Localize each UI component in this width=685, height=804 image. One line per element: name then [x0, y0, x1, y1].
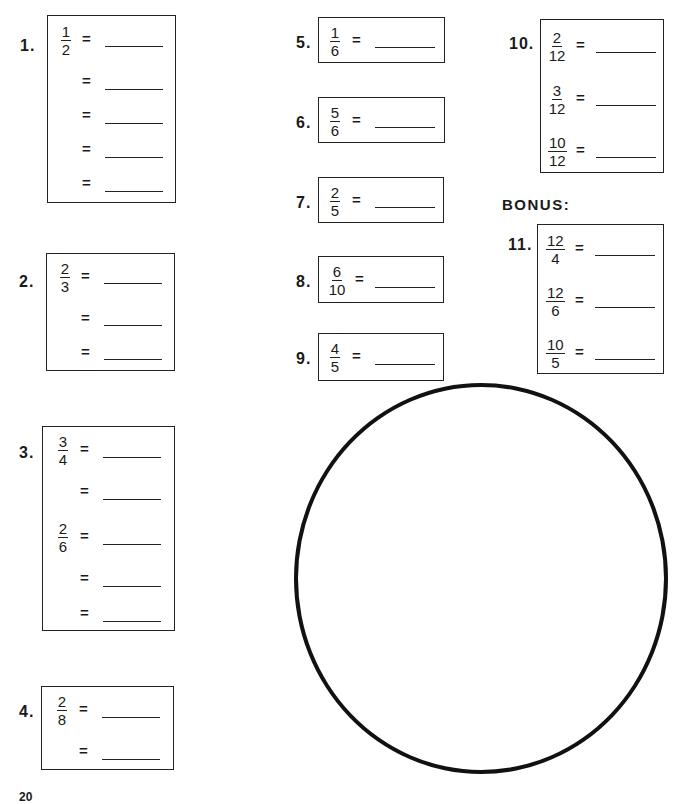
- fraction-2-3: 2 3: [56, 261, 74, 294]
- equals-sign: =: [80, 569, 89, 586]
- problem-7-box: 2 5 =: [318, 177, 444, 223]
- answer-blank[interactable]: [104, 283, 162, 284]
- problem-6-label: 6.: [296, 114, 311, 132]
- answer-blank[interactable]: [595, 255, 655, 256]
- numerator: 5: [330, 105, 340, 122]
- denominator: 4: [59, 451, 67, 467]
- equals-sign: =: [576, 36, 585, 53]
- denominator: 6: [331, 122, 339, 138]
- equals-sign: =: [575, 343, 584, 360]
- answer-blank[interactable]: [103, 457, 161, 458]
- denominator: 4: [551, 250, 559, 266]
- numerator: 3: [58, 434, 68, 451]
- problem-9-label: 9.: [296, 350, 311, 368]
- fraction-2-8: 2 8: [53, 694, 71, 727]
- fraction-6-10: 6 10: [328, 264, 346, 297]
- answer-blank[interactable]: [102, 759, 160, 760]
- equals-sign: =: [80, 527, 89, 544]
- answer-blank[interactable]: [104, 359, 162, 360]
- equals-sign: =: [80, 604, 89, 621]
- answer-blank[interactable]: [103, 499, 161, 500]
- answer-blank[interactable]: [596, 105, 656, 106]
- answer-blank[interactable]: [102, 717, 160, 718]
- answer-blank[interactable]: [375, 127, 435, 128]
- numerator: 2: [57, 694, 67, 711]
- equals-sign: =: [576, 141, 585, 158]
- answer-blank[interactable]: [103, 544, 161, 545]
- empty-circle-drawing-area[interactable]: [294, 383, 668, 774]
- numerator: 2: [330, 185, 340, 202]
- equals-sign: =: [81, 267, 90, 284]
- numerator: 3: [552, 83, 562, 100]
- answer-blank[interactable]: [103, 621, 161, 622]
- problem-8-box: 6 10 =: [318, 256, 444, 303]
- fraction-3-4: 3 4: [54, 434, 72, 467]
- problem-8-label: 8.: [296, 273, 311, 291]
- problem-6-box: 5 6 =: [318, 97, 445, 143]
- equals-sign: =: [575, 239, 584, 256]
- equals-sign: =: [352, 31, 361, 48]
- numerator: 1: [330, 25, 340, 42]
- denominator: 12: [549, 152, 566, 168]
- equals-sign: =: [82, 30, 91, 47]
- denominator: 12: [549, 47, 566, 63]
- answer-blank[interactable]: [375, 207, 435, 208]
- numerator: 2: [552, 30, 562, 47]
- equals-sign: =: [82, 106, 91, 123]
- fraction-12-6: 12 6: [546, 285, 565, 318]
- equals-sign: =: [82, 140, 91, 157]
- equals-sign: =: [81, 309, 90, 326]
- problem-10-label: 10.: [509, 35, 534, 53]
- denominator: 3: [61, 278, 69, 294]
- answer-blank[interactable]: [105, 89, 163, 90]
- equals-sign: =: [355, 270, 364, 287]
- answer-blank[interactable]: [595, 359, 655, 360]
- problem-2-label: 2.: [19, 273, 34, 291]
- answer-blank[interactable]: [105, 157, 163, 158]
- equals-sign: =: [82, 72, 91, 89]
- page-number: 20: [19, 790, 32, 804]
- equals-sign: =: [79, 742, 88, 759]
- answer-blank[interactable]: [596, 52, 656, 53]
- answer-blank[interactable]: [595, 307, 655, 308]
- answer-blank[interactable]: [375, 287, 435, 288]
- numerator: 10: [546, 337, 565, 354]
- answer-blank[interactable]: [105, 191, 163, 192]
- answer-blank[interactable]: [103, 586, 161, 587]
- numerator: 2: [58, 521, 68, 538]
- problem-5-box: 1 6 =: [318, 17, 445, 63]
- fraction-1-2: 1 2: [57, 24, 75, 57]
- equals-sign: =: [576, 89, 585, 106]
- denominator: 12: [549, 100, 566, 116]
- equals-sign: =: [352, 347, 361, 364]
- equals-sign: =: [80, 440, 89, 457]
- numerator: 6: [332, 264, 342, 281]
- problem-2-box: 2 3 = = =: [46, 253, 175, 371]
- equals-sign: =: [352, 191, 361, 208]
- numerator: 12: [546, 233, 565, 250]
- answer-blank[interactable]: [105, 123, 163, 124]
- fraction-4-5: 4 5: [326, 341, 344, 374]
- equals-sign: =: [80, 482, 89, 499]
- denominator: 10: [329, 281, 346, 297]
- denominator: 5: [331, 202, 339, 218]
- denominator: 6: [331, 42, 339, 58]
- fraction-2-6: 2 6: [54, 521, 72, 554]
- numerator: 12: [546, 285, 565, 302]
- denominator: 6: [59, 538, 67, 554]
- problem-1-label: 1.: [20, 37, 35, 55]
- answer-blank[interactable]: [375, 364, 435, 365]
- problem-3-box: 3 4 = = 2 6 = = =: [42, 426, 175, 631]
- answer-blank[interactable]: [104, 325, 162, 326]
- equals-sign: =: [352, 111, 361, 128]
- denominator: 2: [62, 41, 70, 57]
- fraction-2-12: 2 12: [548, 30, 566, 63]
- numerator: 2: [60, 261, 70, 278]
- denominator: 5: [551, 354, 559, 370]
- answer-blank[interactable]: [596, 157, 656, 158]
- answer-blank[interactable]: [105, 46, 163, 47]
- denominator: 5: [331, 358, 339, 374]
- answer-blank[interactable]: [375, 47, 435, 48]
- equals-sign: =: [82, 174, 91, 191]
- numerator: 4: [330, 341, 340, 358]
